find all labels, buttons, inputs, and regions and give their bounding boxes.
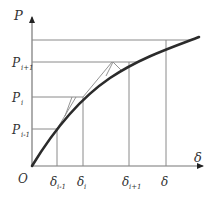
svg-text:i+1: i+1 (129, 183, 142, 191)
svg-text:P: P (11, 56, 21, 70)
svg-text:i: i (21, 99, 23, 107)
svg-text:P: P (11, 123, 21, 137)
svg-text:i-1: i-1 (21, 131, 30, 139)
tangent-line-step-2c (113, 62, 121, 70)
x-tick-delta-i: δ i (77, 175, 86, 191)
origin-label: O (18, 172, 28, 186)
x-tick-delta-i-minus-1: δ i-1 (50, 175, 66, 191)
x-axis-label: δ (194, 150, 202, 165)
svg-text:P: P (11, 91, 21, 105)
svg-text:i+1: i+1 (21, 64, 34, 72)
svg-text:δ: δ (161, 175, 168, 189)
p-delta-diagram: P δ O P i+1 P i P i-1 δ i-1 δ i δ i+1 δ (0, 0, 217, 197)
x-tick-delta-i-plus-1: δ i+1 (122, 175, 142, 191)
svg-text:i: i (84, 183, 86, 191)
svg-text:i-1: i-1 (57, 183, 66, 191)
y-tick-p-i: P i (11, 91, 23, 107)
y-tick-p-i-minus-1: P i-1 (11, 123, 30, 139)
y-tick-p-i-plus-1: P i+1 (11, 56, 34, 72)
x-tick-delta: δ (161, 175, 168, 189)
y-axis-label: P (13, 8, 23, 23)
tangent-line-step-2b (106, 62, 113, 76)
